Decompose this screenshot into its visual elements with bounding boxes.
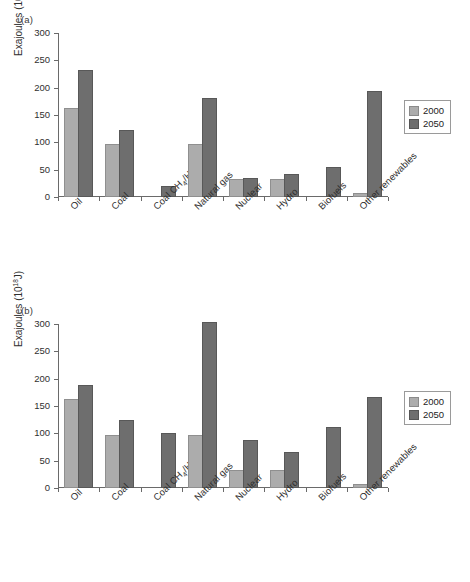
x-axis-tick (264, 488, 265, 492)
legend-entry-2050: 2050 (409, 408, 444, 421)
y-axis-tick-label: 250 (34, 54, 50, 65)
bar-2000 (64, 399, 79, 488)
y-axis-tick-label: 200 (34, 373, 50, 384)
bar-group (264, 324, 305, 488)
x-axis-tick (141, 488, 142, 492)
y-axis-tick-label: 0 (45, 482, 50, 493)
legend-label-2050: 2050 (423, 118, 444, 129)
legend-label-2050: 2050 (423, 409, 444, 420)
y-axis-tick-label: 100 (34, 427, 50, 438)
y-axis-tick-label: 250 (34, 345, 50, 356)
y-axis-tick-label: 0 (45, 191, 50, 202)
legend-swatch-2050-icon (409, 119, 419, 129)
bar-group (347, 33, 388, 197)
legend-swatch-2000-icon (409, 106, 419, 116)
x-axis-label: Oil (68, 196, 84, 212)
legend-label-2000: 2000 (423, 105, 444, 116)
y-axis-tick-label: 150 (34, 109, 50, 120)
x-axis-tick (99, 197, 100, 201)
bar-group (223, 33, 264, 197)
legend-entry-2050: 2050 (409, 117, 444, 130)
legend-swatch-2000-icon (409, 397, 419, 407)
bar-group (99, 324, 140, 488)
legend-b: 2000 2050 (404, 391, 451, 425)
y-axis-tick-label: 150 (34, 400, 50, 411)
bar-2050 (78, 385, 93, 488)
bar-group (141, 324, 182, 488)
x-axis-tick (223, 488, 224, 492)
y-axis-tick-label: 100 (34, 136, 50, 147)
chart-panel-a: (a) Exajoules (1018J) 050100150200250300… (0, 0, 470, 286)
plot-area-b: 050100150200250300OilCoalCoal CH4/H2Natu… (58, 324, 388, 488)
y-axis-title-b: Exajoules (1018J) (12, 271, 24, 347)
x-axis-tick (306, 488, 307, 492)
x-axis-tick (347, 197, 348, 201)
y-axis-title-a: Exajoules (1018J) (12, 0, 24, 56)
y-axis-title-text: Exajoules (10 (13, 286, 24, 347)
bar-group (223, 324, 264, 488)
x-axis-tick (347, 488, 348, 492)
bar-2050 (119, 130, 134, 197)
x-axis-tick (58, 197, 59, 201)
x-axis-tick (141, 197, 142, 201)
x-axis-tick (99, 488, 100, 492)
x-axis-tick (223, 197, 224, 201)
plot-area-a: 050100150200250300OilCoalCoal CH4/H2Natu… (58, 33, 388, 197)
x-axis-tick (182, 488, 183, 492)
y-axis-tick-label: 50 (39, 455, 50, 466)
bar-group (58, 324, 99, 488)
legend-entry-2000: 2000 (409, 104, 444, 117)
caption-fragment (0, 570, 470, 582)
y-axis-title-exponent: 18 (12, 279, 19, 286)
bar-group (182, 324, 223, 488)
legend-a: 2000 2050 (404, 100, 451, 134)
x-axis-tick (306, 197, 307, 201)
bar-2050 (202, 322, 217, 488)
bar-group (182, 33, 223, 197)
bar-group (347, 324, 388, 488)
y-axis-tick-label: 300 (34, 27, 50, 38)
bar-2000 (64, 108, 79, 197)
bar-2050 (119, 420, 134, 488)
x-axis-label: Oil (68, 487, 84, 503)
y-axis-tick-label: 200 (34, 82, 50, 93)
bar-2000 (188, 144, 203, 197)
x-axis-tick (182, 197, 183, 201)
bar-2050 (78, 70, 93, 197)
bar-2000 (105, 144, 120, 197)
chart-panel-b: (b) Exajoules (1018J) 050100150200250300… (0, 291, 470, 577)
x-axis-tick (388, 488, 389, 492)
bar-group (58, 33, 99, 197)
bar-group (306, 33, 347, 197)
legend-swatch-2050-icon (409, 410, 419, 420)
legend-entry-2000: 2000 (409, 395, 444, 408)
x-axis-tick (264, 197, 265, 201)
x-axis-tick (388, 197, 389, 201)
y-axis-tick-label: 300 (34, 318, 50, 329)
x-axis-tick (58, 488, 59, 492)
bar-group (99, 33, 140, 197)
bar-2000 (188, 435, 203, 488)
bar-group (306, 324, 347, 488)
y-axis-title-tail: J) (13, 271, 24, 279)
bar-2000 (105, 435, 120, 488)
legend-label-2000: 2000 (423, 396, 444, 407)
bar-group (141, 33, 182, 197)
bar-group (264, 33, 305, 197)
y-axis-tick-label: 50 (39, 164, 50, 175)
y-axis-title-text: Exajoules (10 (13, 0, 24, 56)
